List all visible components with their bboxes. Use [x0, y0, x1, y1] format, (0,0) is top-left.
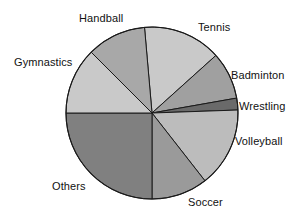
slice-label-badminton: Badminton: [231, 70, 285, 81]
slice-label-volleyball: Volleyball: [235, 136, 282, 147]
slice-label-handball: Handball: [79, 13, 123, 24]
slice-label-others: Others: [52, 181, 86, 192]
slice-label-gymnastics: Gymnastics: [14, 57, 72, 68]
slice-label-wrestling: Wrestling: [239, 101, 286, 112]
pie-slices-group: [66, 27, 238, 199]
slice-label-tennis: Tennis: [198, 22, 230, 33]
pie-chart: Tennis Badminton Wrestling Volleyball So…: [0, 0, 300, 222]
slice-label-soccer: Soccer: [188, 197, 223, 208]
